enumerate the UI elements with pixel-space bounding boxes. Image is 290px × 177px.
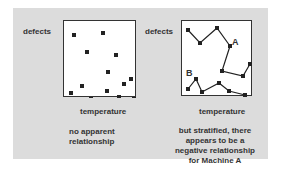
series-label-a: A	[232, 37, 239, 47]
right-caption-line: for Machine A	[170, 156, 260, 166]
data-point	[132, 97, 136, 98]
data-point	[89, 97, 93, 98]
data-point	[129, 77, 133, 81]
data-point	[243, 93, 247, 97]
left-x-axis-label: temperature	[80, 107, 126, 116]
right-stratified-plot: AB	[181, 20, 252, 96]
data-point	[80, 84, 84, 88]
data-point	[248, 62, 252, 66]
data-point	[122, 82, 126, 86]
left-caption: no apparent relationship	[69, 127, 115, 147]
data-point	[186, 87, 190, 91]
data-point	[106, 70, 110, 74]
left-y-axis-label: defects	[23, 27, 51, 36]
data-point	[241, 74, 245, 78]
series-line-a	[188, 28, 250, 76]
data-point	[114, 53, 118, 57]
data-point	[101, 31, 105, 35]
data-point	[215, 26, 219, 30]
data-point	[72, 33, 76, 37]
data-point	[220, 69, 224, 73]
data-point	[117, 95, 121, 98]
data-point	[200, 90, 204, 94]
data-point	[227, 89, 231, 93]
series-line-b	[188, 79, 245, 95]
data-point	[198, 41, 202, 45]
right-caption: but stratified, there appears to be a ne…	[170, 126, 260, 166]
data-point	[85, 50, 89, 54]
data-point	[217, 81, 221, 85]
data-point	[194, 77, 198, 81]
series-label-b: B	[186, 68, 193, 78]
data-point	[105, 89, 109, 93]
right-caption-line: but stratified, there	[170, 126, 260, 136]
data-point	[69, 91, 73, 95]
left-scatter-plot	[63, 20, 136, 97]
data-point	[186, 28, 190, 32]
right-x-axis-label: temperature	[199, 107, 245, 116]
right-caption-line: appears to be a	[170, 136, 260, 146]
right-caption-line: negative relationship	[170, 146, 260, 156]
right-y-axis-label: defects	[145, 27, 173, 36]
left-caption-line: no apparent	[69, 127, 115, 137]
left-caption-line: relationship	[69, 137, 115, 147]
